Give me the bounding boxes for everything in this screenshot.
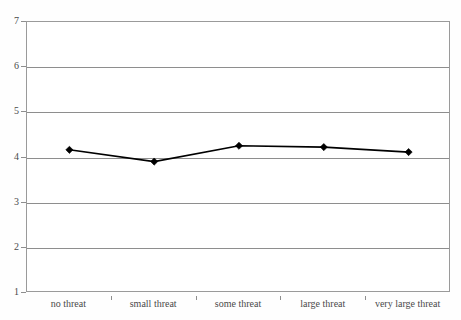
y-tick-label-4: 4 — [14, 152, 19, 162]
x-tick-mark-4 — [365, 296, 366, 300]
x-tick-label-some-threat: some threat — [215, 298, 261, 309]
series-markers — [66, 142, 412, 165]
plot-area — [26, 21, 450, 292]
x-tick-mark-3 — [280, 296, 281, 300]
y-tick-label-6: 6 — [14, 61, 19, 71]
y-tick-label-2: 2 — [14, 242, 19, 252]
data-point-large-threat — [320, 144, 327, 151]
y-tick-mark-1 — [21, 292, 26, 293]
x-tick-label-very-large-threat: very large threat — [375, 298, 440, 309]
y-axis: 1234567 — [0, 0, 26, 320]
x-tick-mark-1 — [111, 296, 112, 300]
y-tick-label-5: 5 — [14, 106, 19, 116]
y-tick-label-1: 1 — [14, 287, 19, 297]
data-point-very-large-threat — [405, 148, 412, 155]
data-point-no-threat — [66, 146, 73, 153]
data-point-some-threat — [235, 142, 242, 149]
line-chart: 1234567 no threatsmall threatsome threat… — [0, 0, 461, 320]
y-tick-label-7: 7 — [14, 16, 19, 26]
data-point-small-threat — [151, 158, 158, 165]
x-tick-label-no-threat: no threat — [51, 298, 86, 309]
x-tick-label-small-threat: small threat — [130, 298, 177, 309]
x-tick-mark-2 — [196, 296, 197, 300]
x-tick-label-large-threat: large threat — [300, 298, 345, 309]
y-tick-label-3: 3 — [14, 197, 19, 207]
series-threat-rating — [27, 22, 451, 293]
x-axis: no threatsmall threatsome threatlarge th… — [26, 296, 450, 318]
